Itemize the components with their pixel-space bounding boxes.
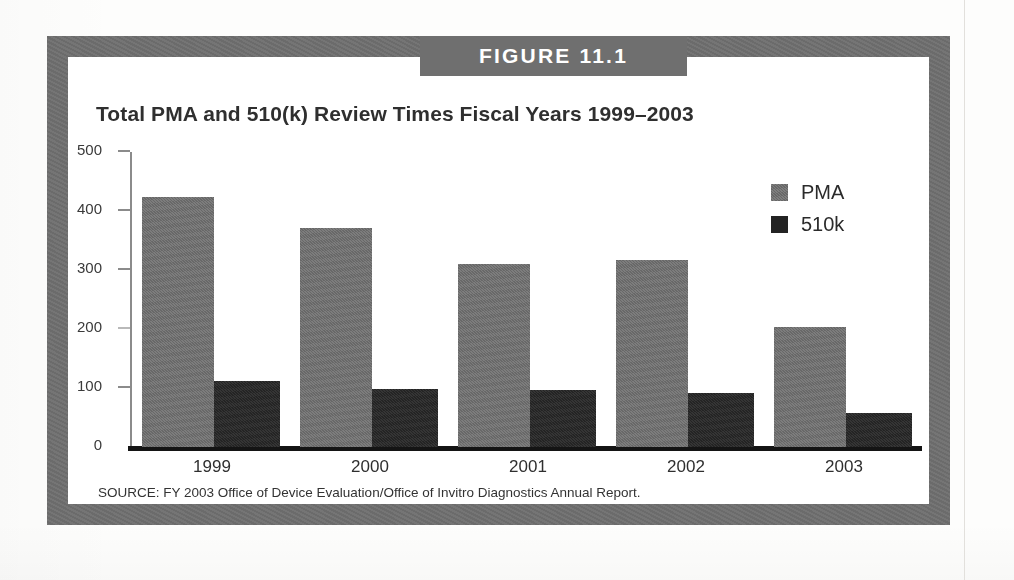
bar-group-2001: 2001 (458, 152, 600, 447)
page-edge-line (964, 0, 965, 580)
legend-swatch-pma-icon (771, 184, 788, 201)
bar-group-2000: 2000 (300, 152, 442, 447)
bar-pma-2000[interactable] (300, 228, 372, 447)
x-tick-label-2003: 2003 (825, 457, 863, 477)
bar-pma-2001[interactable] (458, 264, 530, 447)
bar-group-1999: 1999 (142, 152, 284, 447)
x-tick-label-2001: 2001 (509, 457, 547, 477)
x-tick-label-1999: 1999 (193, 457, 231, 477)
source-note: SOURCE: FY 2003 Office of Device Evaluat… (98, 485, 641, 500)
x-tick-label-2002: 2002 (667, 457, 705, 477)
legend-item-510k[interactable]: 510k (771, 213, 844, 236)
y-tick-100: 100 (118, 386, 130, 388)
chart-title: Total PMA and 510(k) Review Times Fiscal… (96, 102, 694, 126)
y-axis-line (130, 152, 132, 447)
bar-group-2002: 2002 (616, 152, 758, 447)
x-tick-label-2000: 2000 (351, 457, 389, 477)
bar-510k-1999[interactable] (214, 381, 280, 447)
bar-510k-2000[interactable] (372, 389, 438, 447)
y-tick-label-0: 0 (94, 436, 102, 453)
bar-510k-2003[interactable] (846, 413, 912, 447)
bar-pma-2003[interactable] (774, 327, 846, 447)
y-tick-label-100: 100 (77, 377, 102, 394)
legend-swatch-510k-icon (771, 216, 788, 233)
y-tick-label-300: 300 (77, 259, 102, 276)
legend-item-pma[interactable]: PMA (771, 181, 844, 204)
y-tick-label-200: 200 (77, 318, 102, 335)
chart-legend: PMA 510k (771, 181, 844, 245)
bar-510k-2001[interactable] (530, 390, 596, 447)
y-tick-500: 500 (118, 150, 130, 152)
y-tick-400: 400 (118, 209, 130, 211)
y-tick-0: 0 (118, 445, 130, 447)
bar-510k-2002[interactable] (688, 393, 754, 447)
bar-pma-1999[interactable] (142, 197, 214, 447)
y-tick-label-500: 500 (77, 141, 102, 158)
legend-label-510k: 510k (801, 213, 844, 236)
bar-pma-2002[interactable] (616, 260, 688, 447)
chart-area: Total PMA and 510(k) Review Times Fiscal… (68, 57, 929, 504)
y-tick-200: 200 (118, 327, 130, 329)
y-tick-300: 300 (118, 268, 130, 270)
legend-label-pma: PMA (801, 181, 844, 204)
y-tick-label-400: 400 (77, 200, 102, 217)
